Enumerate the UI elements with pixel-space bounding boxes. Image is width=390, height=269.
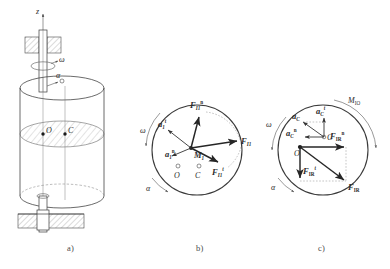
alpha-label-b: α xyxy=(146,184,151,193)
label-firn-c: FIRn xyxy=(329,130,344,142)
caption-b: b) xyxy=(196,243,203,253)
vector-fi1n-b xyxy=(191,117,199,148)
point-c-label-a: C xyxy=(68,126,74,135)
panel-a-group: z ω α xyxy=(18,7,104,232)
caption-c: c) xyxy=(318,243,325,253)
point-o-label-b: O xyxy=(174,171,180,180)
point-c-marker-b xyxy=(197,164,201,168)
point-o-marker-a xyxy=(41,132,44,135)
label-firt-c: FIRt xyxy=(302,165,316,177)
panel-b-group: ω α O C M1 a1t a1n FI1n FI1t FI1 xyxy=(140,99,252,195)
omega-label-a: ω xyxy=(59,55,65,64)
vector-ac-c xyxy=(303,122,324,137)
omega-label-b: ω xyxy=(140,126,146,135)
point-o-label-a: O xyxy=(46,126,52,135)
axis-z-label: z xyxy=(35,7,40,16)
vector-a1n-b xyxy=(172,148,191,156)
vector-a1t-b xyxy=(168,130,191,148)
ground-support xyxy=(18,210,84,230)
panel-c-group: MIO ω α O C aC aCt aCn FIRn FIRt FIR xyxy=(266,96,376,195)
point-c-label-b: C xyxy=(195,171,201,180)
point-o-marker-b xyxy=(176,164,180,168)
alpha-indicator-a xyxy=(47,79,64,86)
label-a1n-b: a1n xyxy=(165,148,175,160)
label-fi1-b: FI1 xyxy=(240,136,252,147)
omega-label-c: ω xyxy=(266,120,272,129)
alpha-label-a: α xyxy=(56,71,61,80)
omega-arc-c xyxy=(272,117,286,150)
alpha-label-c: α xyxy=(271,183,276,192)
point-c-marker-a xyxy=(63,132,66,135)
label-mio-c: MIO xyxy=(347,96,360,106)
figure-canvas: z ω α xyxy=(0,0,390,269)
mass-plane-ellipse xyxy=(20,121,104,147)
alpha-arc-c xyxy=(278,178,294,192)
label-ac-c: aC xyxy=(292,111,300,122)
alpha-arc-b xyxy=(152,178,168,192)
label-acn-c: aCn xyxy=(286,127,297,139)
label-fi1t-b: FI1t xyxy=(211,166,224,178)
point-o-label-c: O xyxy=(294,149,300,158)
label-act-c: aCt xyxy=(316,105,326,117)
label-a1t-b: a1t xyxy=(158,118,167,130)
vector-fi1-b xyxy=(191,141,237,148)
mechanics-figure: z ω α xyxy=(0,0,390,269)
caption-a: a) xyxy=(67,243,74,253)
label-fir-c: FIR xyxy=(347,182,360,193)
